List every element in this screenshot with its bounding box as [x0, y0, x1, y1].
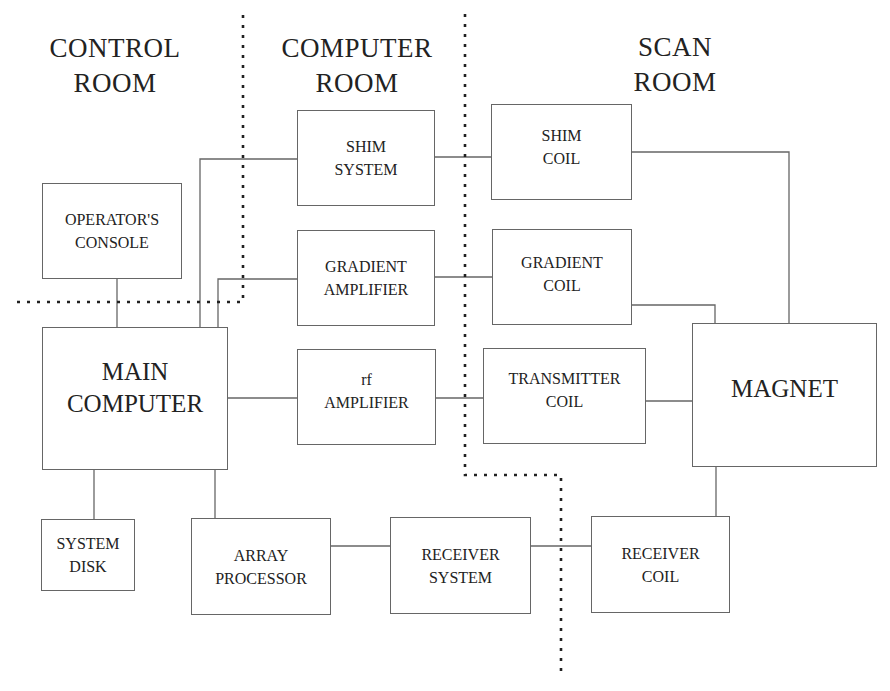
- block-main-computer: MAIN COMPUTER: [42, 327, 228, 470]
- block-system-disk: SYSTEM DISK: [41, 519, 135, 591]
- block-label: RECEIVER COIL: [621, 542, 699, 588]
- block-array-processor: ARRAY PROCESSOR: [191, 518, 331, 615]
- block-label: SHIM COIL: [541, 124, 581, 170]
- block-label: rf AMPLIFIER: [324, 368, 408, 414]
- block-gradient-amplifier: GRADIENT AMPLIFIER: [297, 230, 435, 326]
- block-label: RECEIVER SYSTEM: [421, 543, 499, 589]
- wire-shim-coil-magnet: [632, 152, 789, 323]
- block-label: MAGNET: [731, 373, 838, 405]
- block-label: SHIM SYSTEM: [334, 135, 397, 181]
- room-label-computer: COMPUTER ROOM: [262, 31, 452, 101]
- block-label: GRADIENT AMPLIFIER: [324, 255, 408, 301]
- room-label-control: CONTROL ROOM: [20, 31, 210, 101]
- wire-main-shim-system: [200, 159, 297, 327]
- wire-gradient-coil-magnet: [632, 305, 715, 323]
- block-shim-coil: SHIM COIL: [491, 104, 632, 200]
- block-label: SYSTEM DISK: [56, 532, 119, 578]
- block-label: TRANSMITTER COIL: [509, 367, 621, 413]
- block-gradient-coil: GRADIENT COIL: [492, 229, 632, 325]
- block-label: MAIN COMPUTER: [67, 356, 203, 420]
- block-magnet: MAGNET: [692, 323, 877, 467]
- block-receiver-system: RECEIVER SYSTEM: [390, 517, 531, 614]
- room-label-scan: SCAN ROOM: [590, 30, 760, 100]
- block-transmitter-coil: TRANSMITTER COIL: [483, 348, 646, 444]
- block-label: ARRAY PROCESSOR: [215, 544, 307, 590]
- block-receiver-coil: RECEIVER COIL: [591, 516, 730, 613]
- block-label: OPERATOR'S CONSOLE: [65, 208, 159, 254]
- block-label: GRADIENT COIL: [521, 251, 603, 297]
- block-rf-amplifier: rf AMPLIFIER: [297, 349, 436, 445]
- block-shim-system: SHIM SYSTEM: [297, 110, 435, 206]
- block-operators-console: OPERATOR'S CONSOLE: [42, 183, 182, 279]
